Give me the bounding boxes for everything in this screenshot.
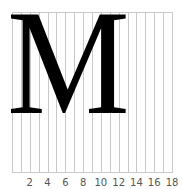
tick-label: 10 (95, 177, 108, 188)
grid-line (145, 12, 146, 173)
grid-line (154, 12, 155, 173)
tick-label: 12 (112, 177, 125, 188)
tick-label: 8 (80, 177, 86, 188)
tick-label: 18 (166, 177, 179, 188)
tick-label: 4 (44, 177, 50, 188)
glyph-letter: M (7, 0, 130, 137)
grid-line (163, 12, 164, 173)
grid-line (172, 12, 173, 173)
tick-label: 16 (148, 177, 161, 188)
tick-label: 2 (27, 177, 33, 188)
grid-border (12, 172, 173, 173)
grid-line (136, 12, 137, 173)
tick-label: 14 (130, 177, 143, 188)
tick-label: 6 (62, 177, 68, 188)
